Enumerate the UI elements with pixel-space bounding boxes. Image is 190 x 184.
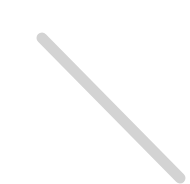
outcome-cell <box>159 103 184 125</box>
outcome-cell <box>109 128 134 150</box>
outcome-cell <box>159 78 184 100</box>
outcome-cell <box>159 28 184 50</box>
outcome-cell <box>109 154 134 176</box>
outcome-cell <box>159 128 184 150</box>
outcome-cell <box>134 128 159 150</box>
outcome-cell <box>134 78 159 100</box>
outcome-cell <box>59 128 84 150</box>
outcome-cell <box>109 78 134 100</box>
outcome-cell <box>84 128 109 150</box>
outcome-cell <box>134 28 159 50</box>
outcome-cell <box>84 53 109 75</box>
outcome-cell <box>84 28 109 50</box>
outcome-cell <box>59 78 84 100</box>
outcome-cell <box>109 53 134 75</box>
outcome-cell <box>59 154 84 176</box>
outcome-cell <box>34 154 59 176</box>
outcome-cell <box>134 154 159 176</box>
outcome-cell <box>59 28 84 50</box>
outcome-cell <box>59 53 84 75</box>
outcome-cell <box>34 128 59 150</box>
outcome-cell <box>134 103 159 125</box>
outcome-cell <box>34 78 59 100</box>
outcome-cell <box>59 103 84 125</box>
outcome-cell <box>84 154 109 176</box>
outcome-cell <box>84 78 109 100</box>
outcome-cell <box>134 53 159 75</box>
outcome-cell <box>109 103 134 125</box>
outcome-cell <box>159 53 184 75</box>
outcome-cell <box>34 103 59 125</box>
outcome-cell <box>159 154 184 176</box>
outcome-cell <box>34 53 59 75</box>
outcome-cell <box>84 103 109 125</box>
outcome-cell <box>109 28 134 50</box>
outcome-cell <box>34 28 59 50</box>
